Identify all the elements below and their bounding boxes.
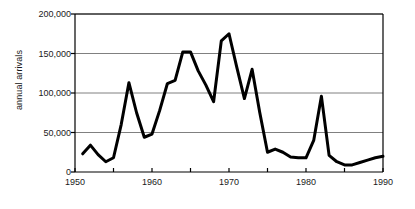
chart-figure: annual arrivals 200,000 150,000 100,000 …	[0, 0, 415, 209]
gridlines	[75, 14, 383, 133]
chart-plot-svg	[0, 0, 415, 209]
